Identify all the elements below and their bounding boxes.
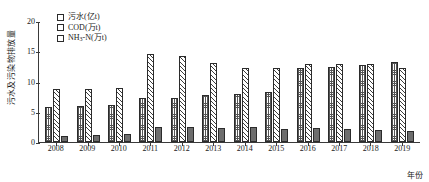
bar-group-2010 (104, 22, 135, 142)
y-axis-tick-0: 0 (11, 139, 35, 147)
bar-cod-2014 (234, 94, 241, 142)
x-axis-tick-2019: 2019 (387, 145, 419, 153)
bar-nh3n-2011 (155, 127, 162, 142)
bar-group-2015 (261, 22, 292, 142)
bar-wastewater-2014 (242, 68, 249, 142)
bar-nh3n-2012 (187, 127, 194, 142)
x-axis-tick-2011: 2011 (135, 145, 167, 153)
bar-nh3n-2019 (407, 131, 414, 142)
bar-cod-2008 (45, 107, 52, 142)
y-axis-tick-20: 20 (11, 18, 35, 26)
bar-wastewater-2009 (85, 89, 92, 142)
y-tick-mark (36, 143, 40, 144)
bar-cod-2019 (391, 62, 398, 142)
bar-wastewater-2019 (399, 68, 406, 142)
bar-chart: 污水及污染物排放量 05101520 200820092010201120122… (0, 0, 429, 182)
bar-nh3n-2008 (61, 136, 68, 142)
bar-cod-2015 (265, 92, 272, 142)
x-axis-tick-2014: 2014 (229, 145, 261, 153)
bar-nh3n-2017 (344, 129, 351, 142)
x-axis-tick-2018: 2018 (355, 145, 387, 153)
bar-cod-2009 (77, 106, 84, 142)
bar-wastewater-2012 (179, 56, 186, 143)
x-axis-tick-labels: 2008200920102011201220132014201520162017… (38, 145, 420, 153)
legend-swatch-2 (57, 35, 64, 42)
x-axis-tick-2013: 2013 (198, 145, 230, 153)
legend-swatch-1 (57, 24, 64, 31)
bar-group-2019 (387, 22, 418, 142)
bar-wastewater-2013 (210, 63, 217, 142)
legend-item-2: NH3-N(万t) (57, 34, 107, 42)
bar-wastewater-2015 (273, 68, 280, 142)
bar-group-2016 (292, 22, 323, 142)
x-axis-label: 年份 (407, 169, 423, 180)
bar-wastewater-2017 (336, 64, 343, 142)
bar-group-2018 (355, 22, 386, 142)
x-axis-tick-2015: 2015 (261, 145, 293, 153)
bar-group-2017 (324, 22, 355, 142)
x-axis-tick-2016: 2016 (292, 145, 324, 153)
bar-cod-2012 (171, 98, 178, 142)
chart-legend: 污水(亿t)COD(万t)NH3-N(万t) (57, 13, 107, 42)
bar-wastewater-2018 (367, 64, 374, 142)
bar-cod-2011 (139, 98, 146, 142)
bar-group-2013 (198, 22, 229, 142)
x-axis-tick-2009: 2009 (72, 145, 104, 153)
bar-nh3n-2009 (93, 135, 100, 142)
bar-nh3n-2015 (281, 129, 288, 142)
x-axis-tick-2008: 2008 (40, 145, 72, 153)
legend-item-1: COD(万t) (57, 24, 107, 32)
bar-nh3n-2014 (250, 127, 257, 142)
y-axis-tick-5: 5 (11, 109, 35, 117)
legend-item-0: 污水(亿t) (57, 13, 107, 21)
bar-nh3n-2010 (124, 134, 131, 142)
bar-cod-2013 (202, 95, 209, 142)
legend-swatch-0 (57, 14, 64, 21)
y-axis-tick-10: 10 (11, 79, 35, 87)
x-axis-tick-2017: 2017 (324, 145, 356, 153)
y-axis-tick-15: 15 (11, 48, 35, 56)
bar-wastewater-2008 (53, 89, 60, 142)
bar-wastewater-2016 (305, 64, 312, 142)
bar-cod-2016 (297, 68, 304, 142)
bar-nh3n-2013 (218, 128, 225, 142)
bar-cod-2010 (108, 105, 115, 143)
bar-nh3n-2016 (313, 128, 320, 142)
bar-group-2011 (135, 22, 166, 142)
bar-nh3n-2018 (375, 130, 382, 142)
legend-label-2: NH3-N(万t) (68, 34, 107, 42)
x-axis-tick-2012: 2012 (166, 145, 198, 153)
bar-wastewater-2010 (116, 88, 123, 142)
legend-label-1: COD(万t) (68, 24, 100, 32)
legend-label-0: 污水(亿t) (68, 13, 100, 21)
bar-group-2014 (230, 22, 261, 142)
bar-cod-2017 (328, 67, 335, 142)
x-axis-tick-2010: 2010 (103, 145, 135, 153)
bar-group-2012 (167, 22, 198, 142)
bar-cod-2018 (359, 65, 366, 142)
bar-wastewater-2011 (147, 54, 154, 142)
